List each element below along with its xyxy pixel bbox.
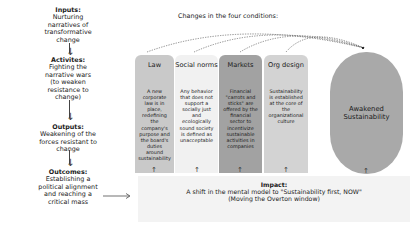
condition-desc: Financial "carrots and sticks" are offer… — [222, 88, 259, 149]
down-arrow-icon: ↓ — [66, 100, 72, 122]
impact-line1: A shift in the mental model to "Sustaina… — [138, 188, 410, 195]
condition-social-norms: Social norms Any behavior that does not … — [175, 55, 218, 173]
condition-org-design: Org design Sustainability is established… — [264, 55, 308, 173]
condition-title: Org design — [264, 61, 308, 69]
inputs-text: Nurturing narratives of transformative c… — [0, 14, 136, 44]
activities-block: Activites: Fighting the narrative wars (… — [0, 57, 136, 101]
outcomes-text: Establishing a political alignment and r… — [0, 176, 136, 206]
up-arrow-icon: ↑ — [193, 167, 201, 174]
activities-text: Fighting the narrative wars (to weaken r… — [0, 64, 136, 101]
goal-label: Awakened Sustainability — [341, 105, 393, 121]
condition-markets: Markets Financial "carrots and sticks" a… — [219, 55, 262, 173]
condition-desc: Sustainability is established at the cor… — [267, 88, 305, 125]
impact-band: Impact: A shift in the mental model to "… — [138, 176, 410, 222]
condition-desc: A new corporate law is in place, redefin… — [138, 88, 171, 161]
up-arrow-icon: ↑ — [362, 168, 370, 175]
condition-title: Law — [135, 61, 174, 69]
conditions-header: Changes in the four conditions: — [178, 12, 278, 20]
condition-title: Markets — [219, 61, 262, 69]
awakened-sustainability-oval: Awakened Sustainability — [330, 52, 403, 174]
condition-title: Social norms — [175, 61, 218, 69]
up-arrow-icon: ↑ — [236, 167, 244, 174]
inputs-block: Inputs: Nurturing narratives of transfor… — [0, 7, 136, 44]
condition-law: Law A new corporate law is in place, red… — [135, 55, 174, 173]
impact-heading: Impact: — [138, 181, 410, 188]
up-arrow-icon: ↑ — [150, 167, 158, 174]
impact-line2: (Moving the Overton window) — [138, 195, 410, 202]
down-arrow-icon: ↓ — [66, 43, 72, 57]
down-arrow-icon: ↓ — [66, 150, 72, 168]
up-arrow-icon: ↑ — [282, 167, 290, 174]
outcomes-block: Outcomes: Establishing a political align… — [0, 169, 136, 206]
condition-desc: Any behavior that does not support a soc… — [178, 88, 215, 143]
